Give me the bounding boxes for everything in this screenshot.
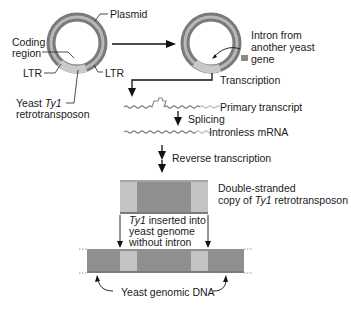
plasmid-ring-right bbox=[185, 17, 237, 69]
genomic-dna-bar bbox=[79, 249, 253, 273]
label-transcription: Transcription bbox=[220, 74, 280, 86]
label-ds-copy-2: copy of Ty1 retrotransposon bbox=[218, 194, 348, 206]
intron-icon bbox=[241, 55, 248, 61]
label-reverse-transcription: Reverse transcription bbox=[172, 152, 271, 164]
label-plasmid: Plasmid bbox=[110, 8, 147, 20]
label-ltr-right: LTR bbox=[105, 67, 124, 79]
label-retrotransposon-suffix: retrotransposon bbox=[272, 194, 348, 206]
label-ty1-italic: Ty1 bbox=[255, 194, 272, 206]
arrow-transcription bbox=[128, 73, 212, 97]
arrow-reverse-transcription bbox=[158, 145, 166, 173]
label-ds-copy-1: Double-stranded bbox=[218, 182, 296, 194]
arrow-splicing bbox=[174, 111, 182, 126]
label-inserted-3: without intron bbox=[129, 236, 191, 248]
label-intronless-mrna: Intronless mRNA bbox=[209, 126, 288, 138]
label-genomic-dna: Yeast genomic DNA bbox=[121, 286, 215, 298]
label-ltr-left: LTR bbox=[23, 67, 42, 79]
label-intron-1: Intron from bbox=[251, 29, 302, 41]
intronless-mrna bbox=[124, 131, 212, 133]
plasmid-ring-left bbox=[51, 17, 103, 70]
label-intron-2: another yeast bbox=[251, 41, 315, 53]
arrow-right bbox=[112, 40, 176, 48]
label-intron-3: gene bbox=[251, 53, 274, 65]
label-coding-region-2: region bbox=[12, 47, 41, 59]
label-copy-of: copy of bbox=[218, 194, 255, 206]
ds-copy-bar bbox=[120, 180, 208, 214]
label-retrotransposon: retrotransposon bbox=[16, 108, 90, 120]
label-primary-transcript: Primary transcript bbox=[220, 101, 302, 113]
label-splicing: Splicing bbox=[188, 113, 225, 125]
primary-transcript bbox=[124, 98, 220, 108]
